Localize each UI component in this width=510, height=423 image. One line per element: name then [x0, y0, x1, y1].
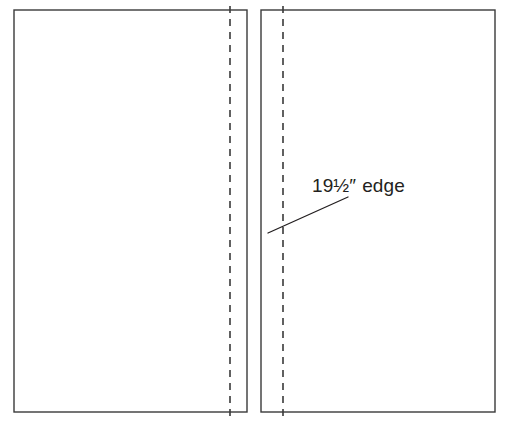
callout-label-unit: ″ [349, 175, 356, 196]
diagram-canvas: 19½″edge [0, 0, 510, 423]
right-panel-rectangle [261, 10, 495, 412]
callout-label-word: edge [362, 175, 405, 196]
left-panel-rectangle [14, 10, 247, 412]
callout-label-number: 19 [312, 175, 333, 196]
callout-label-fraction: ½ [333, 175, 349, 196]
sewing-pattern-diagram: 19½″edge [0, 0, 510, 423]
